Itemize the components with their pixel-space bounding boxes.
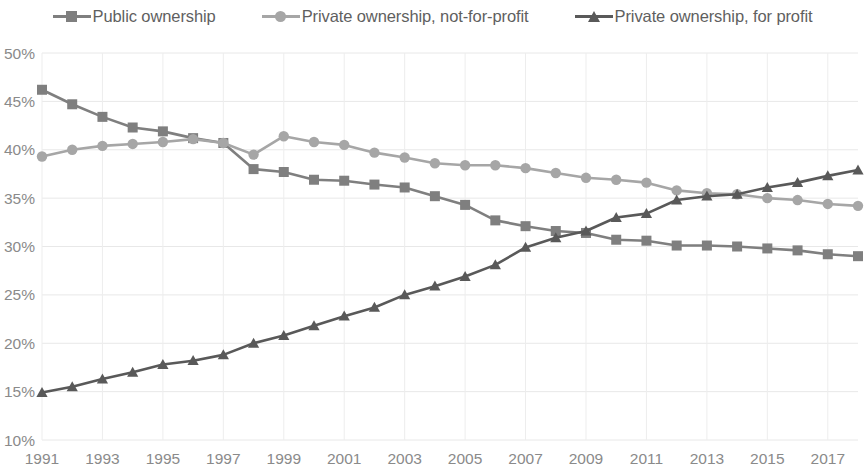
series-private-ownership-not-for-profit [37,131,863,211]
series-layer [36,85,863,397]
square-marker-icon [53,9,91,23]
data-point-marker [430,158,440,168]
data-point-marker [279,131,289,141]
data-point-marker [792,195,802,205]
data-point-marker [399,152,409,162]
x-axis-tick-label: 2017 [811,450,845,467]
data-point-marker [762,193,772,203]
data-point-marker [248,149,258,159]
data-point-marker [249,164,259,174]
data-point-marker [490,160,500,170]
data-point-marker [128,123,138,133]
x-axis-tick-label: 1993 [85,450,119,467]
data-point-marker [309,175,319,185]
plot-area: 10%15%20%25%30%35%40%45%50% 199119931995… [0,30,865,470]
data-point-marker [490,259,501,269]
y-axis-tick-label: 40% [4,141,35,158]
data-point-marker [67,99,77,109]
data-point-marker [460,160,470,170]
data-point-marker [37,151,47,161]
data-point-marker [702,241,712,251]
ownership-trend-chart: Public ownership Private ownership, not-… [0,0,865,470]
y-axis-labels: 10%15%20%25%30%35%40%45%50% [4,45,35,449]
data-point-marker [853,251,863,261]
x-axis-tick-label: 2003 [387,450,421,467]
data-point-marker [97,112,107,122]
x-axis-tick-label: 2011 [630,450,663,467]
circle-marker-icon [262,9,300,23]
x-axis-tick-label: 1991 [25,450,59,467]
data-point-marker [762,243,772,253]
x-axis-tick-label: 2005 [448,450,482,467]
data-point-marker [641,177,651,187]
data-point-marker [852,164,863,174]
y-axis-tick-label: 30% [4,238,35,255]
data-point-marker [611,175,621,185]
y-axis-tick-label: 25% [4,286,35,303]
y-axis-tick-label: 35% [4,190,35,207]
legend-label-private-not-for-profit: Private ownership, not-for-profit [302,7,529,26]
x-axis-tick-label: 1999 [267,450,301,467]
y-axis-tick-label: 20% [4,335,35,352]
data-point-marker [279,167,289,177]
y-axis-tick-label: 15% [4,383,35,400]
y-axis-tick-label: 10% [4,432,35,449]
data-point-marker [127,139,137,149]
data-point-marker [309,137,319,147]
data-point-marker [853,201,863,211]
data-point-marker [97,141,107,151]
data-point-marker [551,168,561,178]
data-point-marker [67,145,77,155]
data-point-marker [671,185,681,195]
legend-label-private-for-profit: Private ownership, for profit [615,7,813,26]
legend-item-public-ownership[interactable]: Public ownership [53,7,216,26]
x-axis-tick-label: 2001 [327,450,361,467]
legend-item-private-not-for-profit[interactable]: Private ownership, not-for-profit [262,7,529,26]
legend-label-public-ownership: Public ownership [93,7,216,26]
x-axis-tick-label: 2013 [690,450,724,467]
data-point-marker [521,221,531,231]
data-point-marker [611,235,621,245]
data-point-marker [339,140,349,150]
data-point-marker [218,138,228,148]
data-point-marker [188,134,198,144]
data-point-marker [732,242,742,252]
x-axis-tick-label: 2015 [750,450,784,467]
data-point-marker [369,180,379,190]
data-point-marker [339,176,349,186]
x-axis-tick-label: 1995 [146,450,180,467]
y-axis-tick-label: 45% [4,93,35,110]
data-point-marker [400,182,410,192]
x-axis-tick-label: 1997 [206,450,240,467]
x-axis-tick-label: 2007 [508,450,542,467]
y-axis-tick-label: 50% [4,45,35,62]
x-axis-labels: 1991199319951997199920012003200520072009… [25,450,845,467]
data-point-marker [823,249,833,259]
x-axis-tick-label: 2009 [569,450,603,467]
line-chart-svg: 10%15%20%25%30%35%40%45%50% 199119931995… [0,30,865,470]
data-point-marker [158,137,168,147]
data-point-marker [520,163,530,173]
legend-item-private-for-profit[interactable]: Private ownership, for profit [575,7,813,26]
data-point-marker [490,215,500,225]
data-point-marker [37,85,47,95]
chart-legend: Public ownership Private ownership, not-… [0,2,865,30]
data-point-marker [793,245,803,255]
data-point-marker [369,147,379,157]
data-point-marker [158,126,168,136]
data-point-marker [430,191,440,201]
series-public-ownership [37,85,863,261]
data-point-marker [641,236,651,246]
data-point-marker [823,199,833,209]
data-point-marker [460,200,470,210]
data-point-marker [672,241,682,251]
triangle-marker-icon [575,9,613,23]
data-point-marker [581,173,591,183]
